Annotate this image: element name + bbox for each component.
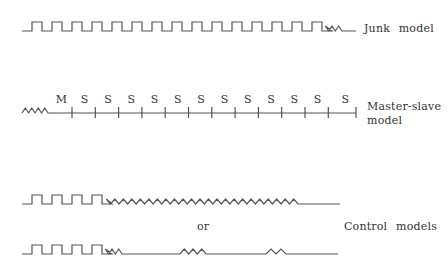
slave-node-label: S bbox=[267, 93, 275, 106]
slave-node-label: S bbox=[244, 93, 252, 106]
slave-node-label: S bbox=[221, 93, 229, 106]
slave-node-label: S bbox=[81, 93, 89, 106]
junk-model-label: Junk model bbox=[364, 22, 434, 35]
slave-node-label: S bbox=[174, 93, 182, 106]
slave-node-label: S bbox=[151, 93, 159, 106]
slave-node-label: S bbox=[291, 93, 299, 106]
control-models-label: Control models bbox=[344, 220, 437, 233]
waveform-control-a bbox=[22, 195, 340, 204]
signal-diagram bbox=[0, 0, 448, 280]
slave-node-label: S bbox=[197, 93, 205, 106]
slave-node-label: S bbox=[314, 93, 322, 106]
master-slave-label-line1: Master-slave bbox=[367, 100, 441, 114]
slave-node-label: S bbox=[104, 93, 112, 106]
waveform-control-b bbox=[22, 245, 338, 254]
slave-node-label: S bbox=[127, 93, 135, 106]
master-node-label: M bbox=[56, 93, 67, 106]
or-label: or bbox=[197, 220, 209, 233]
slave-node-label: S bbox=[342, 93, 350, 106]
master-slave-label-line2: model bbox=[367, 114, 441, 128]
master-slave-label: Master-slave model bbox=[367, 100, 441, 128]
waveform-junk bbox=[22, 22, 356, 31]
